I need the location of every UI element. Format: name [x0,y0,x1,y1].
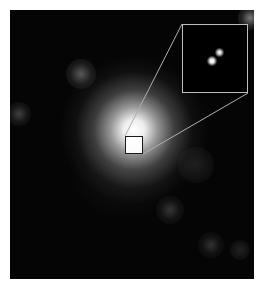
point-source-b [215,48,224,57]
zoom-region-box [125,136,143,154]
point-source-a [207,56,217,66]
magnified-inset [182,24,248,93]
